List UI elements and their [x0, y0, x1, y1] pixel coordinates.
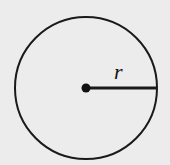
- radius-label: r: [114, 59, 123, 84]
- center-point: [82, 84, 91, 93]
- circle-diagram: r: [0, 0, 170, 165]
